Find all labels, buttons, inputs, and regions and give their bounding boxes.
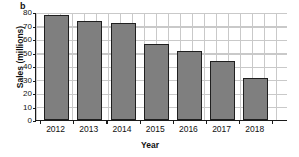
- y-axis-tick-label: 50: [16, 50, 32, 58]
- y-axis-tick-mark: [33, 108, 37, 109]
- x-axis-tick-label: 2018: [237, 124, 273, 134]
- y-axis-tick-label: 10: [16, 104, 32, 112]
- bar-2013: [77, 21, 102, 120]
- x-axis-tick-label: 2015: [137, 124, 173, 134]
- x-axis-tick-label: 2013: [71, 124, 107, 134]
- y-axis-tick-label: 20: [16, 90, 32, 98]
- y-axis-tick-label: 0: [16, 117, 32, 125]
- bar-2016: [177, 51, 202, 120]
- y-axis-tick-mark: [33, 54, 37, 55]
- x-axis-tick-label: 2014: [104, 124, 140, 134]
- y-axis-tick-mark: [33, 94, 37, 95]
- bar-2015: [144, 44, 169, 120]
- y-axis-tick-mark: [33, 67, 37, 68]
- y-axis-tick-mark: [33, 121, 37, 122]
- bar-2017: [210, 61, 235, 120]
- x-axis-tick-label: 2017: [204, 124, 240, 134]
- bar-2018: [243, 78, 268, 120]
- y-axis-tick-mark: [33, 13, 37, 14]
- y-axis-tick-mark: [33, 81, 37, 82]
- y-axis-tick-label: 60: [16, 36, 32, 44]
- y-axis-tick-label: 30: [16, 77, 32, 85]
- figure-panel-b: b Sales (millions) 01020304050607080 Yea…: [0, 0, 299, 157]
- x-axis-tick-label: 2016: [170, 124, 206, 134]
- y-axis-tick-mark: [33, 27, 37, 28]
- bar-2012: [44, 15, 69, 120]
- x-axis-title: Year: [30, 140, 270, 150]
- plot-area: 01020304050607080: [35, 13, 287, 121]
- y-axis-tick-label: 80: [16, 9, 32, 17]
- y-axis-tick-mark: [33, 40, 37, 41]
- y-axis-tick-label: 40: [16, 63, 32, 71]
- x-axis-tick-label: 2012: [38, 124, 74, 134]
- y-axis-tick-label: 70: [16, 23, 32, 31]
- bar-2014: [111, 23, 136, 120]
